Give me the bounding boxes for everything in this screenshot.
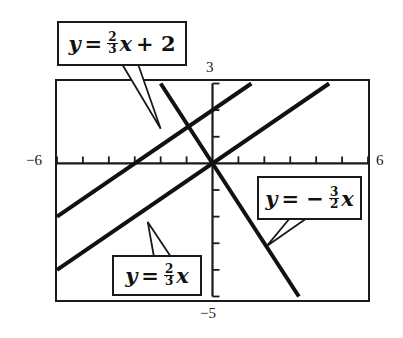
eq3-fraction: 2 3 — [164, 264, 174, 287]
eq3-denominator: 3 — [165, 276, 173, 287]
label-box-eq-2-3x: y = 2 3 x — [112, 255, 202, 296]
x-max-label: 6 — [376, 152, 384, 169]
eq1-denominator: 3 — [108, 44, 116, 55]
eq3-y: y — [125, 263, 137, 288]
x-min-label: −6 — [26, 152, 42, 169]
label-box-eq-2-3x-plus-2: y = 2 3 x + 2 — [57, 21, 187, 66]
eq1-fraction: 2 3 — [107, 32, 117, 55]
eq1-equals: = — [85, 31, 103, 56]
eq1-x: x — [120, 31, 133, 56]
eq3-x: x — [176, 263, 189, 288]
eq2-fraction: 3 2 — [329, 187, 339, 210]
eq1-y: y — [68, 31, 80, 56]
callout-eq-2-3x-plus-2 — [122, 64, 161, 129]
eq3-equals: = — [141, 263, 159, 288]
eq2-denominator: 2 — [330, 199, 338, 210]
eq2-x: x — [341, 186, 354, 211]
y-max-label: 3 — [206, 59, 214, 76]
line-2-3x-plus-2 — [57, 84, 251, 217]
callout-eq-neg-3-2x — [267, 218, 307, 246]
eq1-rest: + 2 — [136, 31, 176, 56]
eq2-y: y — [265, 186, 277, 211]
y-min-label: −5 — [200, 305, 216, 322]
label-box-eq-neg-3-2x: y = − 3 2 x — [257, 176, 362, 220]
eq2-equals: = − — [281, 186, 324, 211]
